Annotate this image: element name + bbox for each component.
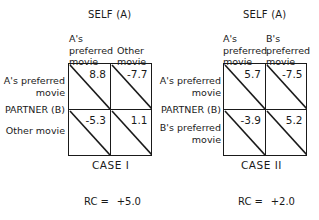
payoff-matrix: 5.7 -7.5 -3.9 5.2 <box>223 63 307 156</box>
matrix-cell: -7.5 <box>266 64 307 109</box>
cell-value: 1.1 <box>131 114 148 126</box>
cell-value: -5.3 <box>86 114 107 126</box>
matrix-cell: 8.8 <box>69 64 110 109</box>
row-header-a-preferred: A's preferred movie <box>160 75 221 98</box>
case-label: CASE II <box>241 159 282 171</box>
row-header-a-preferred: A's preferred movie <box>4 75 65 98</box>
cell-value: 5.7 <box>244 68 261 80</box>
col-header-line: preferred <box>266 45 310 57</box>
row-header-b-preferred: B's preferred movie <box>160 122 221 145</box>
stat-rc: RC =+5.0 <box>84 197 141 208</box>
cell-value: -7.7 <box>127 68 148 80</box>
col-header-line: preferred <box>223 45 267 57</box>
matrix-cell: -7.7 <box>111 64 152 109</box>
matrix-cell: 5.7 <box>224 64 265 109</box>
row-header-line: A's preferred <box>4 75 65 87</box>
row-header-line: B's preferred <box>160 122 221 134</box>
col-header-line: A's <box>223 33 267 45</box>
partner-b-label: PARTNER (B) <box>161 104 221 116</box>
stats-block: RC =+2.0 FC =-1.6 BC =+11.2 <box>238 176 295 220</box>
matrix-cell: 1.1 <box>111 110 152 155</box>
col-header-line: A's <box>69 33 113 45</box>
cell-value: 5.2 <box>286 114 303 126</box>
stat-value: +5.0 <box>109 197 141 208</box>
col-header-line: Other <box>117 45 146 57</box>
col-header-line: B's <box>266 33 310 45</box>
case-label: CASE I <box>92 159 129 171</box>
cell-value: -7.5 <box>282 68 303 80</box>
stat-label: RC = <box>84 196 109 207</box>
col-header-line: preferred <box>69 45 113 57</box>
stat-label: RC = <box>238 196 263 207</box>
payoff-matrix: 8.8 -7.7 -5.3 1.1 <box>68 63 152 156</box>
stat-value: +2.0 <box>263 197 295 208</box>
row-header-other: Other movie <box>6 125 65 137</box>
matrix-cell: 5.2 <box>266 110 307 155</box>
partner-b-label: PARTNER (B) <box>5 104 65 116</box>
stat-rc: RC =+2.0 <box>238 197 295 208</box>
row-header-line: movie <box>160 134 221 146</box>
row-header-line: movie <box>160 87 221 99</box>
self-a-label: SELF (A) <box>243 9 286 20</box>
row-header-line: A's preferred <box>160 75 221 87</box>
matrix-cell: -5.3 <box>69 110 110 155</box>
self-a-label: SELF (A) <box>88 9 131 20</box>
stats-block: RC =+5.0 FC =+2.6 BC =+11.4 <box>84 176 141 220</box>
cell-value: 8.8 <box>89 68 106 80</box>
cell-value: -3.9 <box>241 114 262 126</box>
row-header-line: movie <box>4 87 65 99</box>
matrix-cell: -3.9 <box>224 110 265 155</box>
